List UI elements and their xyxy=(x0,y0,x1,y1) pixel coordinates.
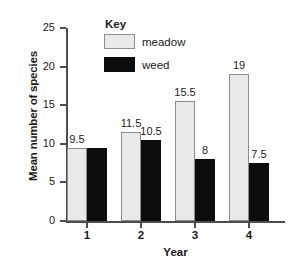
x-tick-mark xyxy=(194,223,196,228)
x-tick-label-2: 2 xyxy=(121,229,161,241)
x-tick-label-4: 4 xyxy=(229,229,269,241)
x-tick-label-1: 1 xyxy=(67,229,107,241)
bar-meadow-year-2 xyxy=(121,132,141,221)
y-tick-label: 10 xyxy=(13,137,55,149)
bar-value-weed-year-3: 8 xyxy=(182,144,228,156)
x-tick-mark xyxy=(140,223,142,228)
legend-title: Key xyxy=(105,18,185,30)
bar-value-meadow-year-4: 19 xyxy=(216,59,262,71)
bar-weed-year-2 xyxy=(141,140,161,221)
bar-meadow-year-1 xyxy=(67,148,87,221)
x-axis-line xyxy=(66,221,285,223)
legend-label-weed: weed xyxy=(142,59,170,71)
y-tick-mark xyxy=(60,220,66,222)
y-tick-label: 15 xyxy=(13,98,55,110)
bar-weed-year-3 xyxy=(195,159,215,221)
y-tick-label: 25 xyxy=(13,21,55,33)
y-tick-mark xyxy=(60,181,66,183)
y-tick-label: 20 xyxy=(13,60,55,72)
x-tick-mark xyxy=(248,223,250,228)
y-tick-mark xyxy=(60,27,66,29)
bar-value-weed-year-4: 7.5 xyxy=(236,148,282,160)
bar-weed-year-4 xyxy=(249,163,269,221)
legend: Key meadow weed xyxy=(104,18,185,80)
legend-item-weed: weed xyxy=(104,57,185,72)
y-tick-mark xyxy=(60,104,66,106)
legend-item-meadow: meadow xyxy=(104,34,185,49)
bar-chart: Mean number of species 0510152025 9.511.… xyxy=(0,0,293,269)
legend-swatch-weed xyxy=(104,57,135,72)
x-tick-mark xyxy=(86,223,88,228)
x-axis-title: Year xyxy=(66,246,285,258)
bar-value-meadow-year-1: 9.5 xyxy=(54,133,100,145)
bar-weed-year-1 xyxy=(87,148,107,221)
bar-meadow-year-3 xyxy=(175,101,195,221)
bar-value-weed-year-2: 10.5 xyxy=(128,125,174,137)
x-tick-label-3: 3 xyxy=(175,229,215,241)
y-tick-label: 5 xyxy=(13,175,55,187)
bar-value-meadow-year-3: 15.5 xyxy=(162,86,208,98)
y-tick-label: 0 xyxy=(13,214,55,226)
legend-swatch-meadow xyxy=(104,34,135,49)
y-tick-mark xyxy=(60,66,66,68)
legend-label-meadow: meadow xyxy=(142,36,185,48)
